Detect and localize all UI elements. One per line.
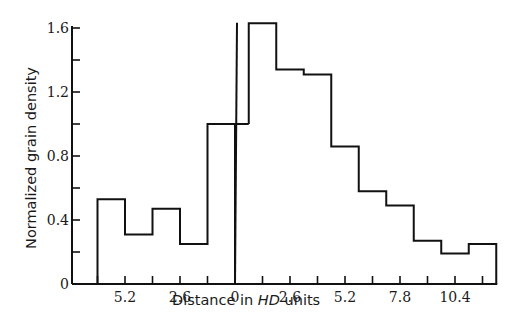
y-tick-label: 1.6 (47, 20, 69, 36)
x-tick-label: 7.8 (389, 289, 411, 305)
y-axis-title: Normalized grain density (23, 67, 39, 249)
x-axis-title: Distance in HD units (172, 292, 320, 308)
y-tick-label: 0.4 (47, 212, 69, 228)
y-tick-label: 0 (60, 276, 69, 292)
y-tick-label: 0.8 (47, 148, 69, 164)
x-axis-title-unit: HD (258, 292, 280, 308)
histogram-left-steps (98, 124, 236, 284)
origin-line (235, 23, 237, 284)
x-tick-label: 5.2 (114, 289, 136, 305)
tick-labels: 00.40.81.21.65.22.602.65.27.810.4 (47, 20, 471, 305)
x-axis-title-suffix: units (280, 292, 320, 308)
y-tick-label: 1.2 (47, 84, 69, 100)
histogram-right-steps (249, 23, 497, 284)
x-tick-label: 10.4 (439, 289, 470, 305)
x-axis-title-prefix: Distance in (172, 292, 258, 308)
histogram-steps (98, 23, 497, 284)
x-tick-label: 5.2 (334, 289, 356, 305)
axes (72, 26, 497, 284)
histogram-chart: 00.40.81.21.65.22.602.65.27.810.4 Normal… (0, 0, 523, 333)
